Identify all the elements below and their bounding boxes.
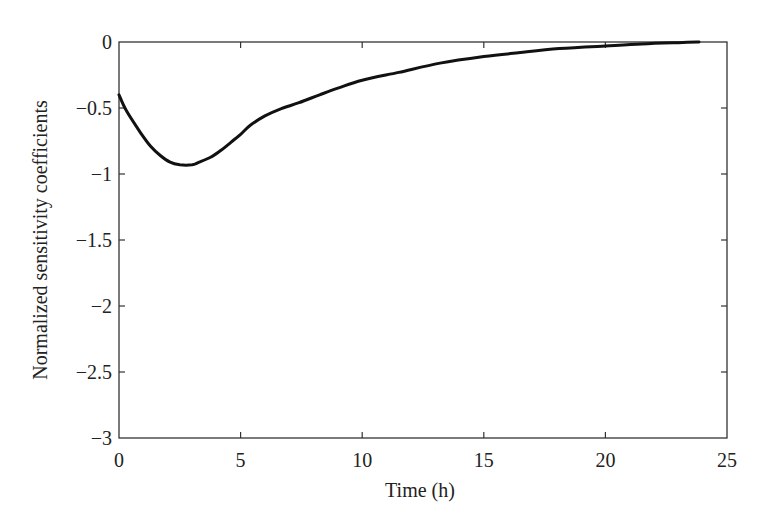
x-tick-label: 20 — [595, 449, 615, 471]
y-tick-label: −3 — [91, 427, 112, 449]
x-axis-ticks: 0510152025 — [114, 42, 737, 471]
y-axis-ticks: 0−0.5−1−1.5−2−2.5−3 — [76, 31, 727, 449]
x-tick-label: 5 — [236, 449, 246, 471]
y-tick-label: 0 — [102, 31, 112, 53]
sensitivity-curve — [119, 42, 699, 165]
x-tick-label: 10 — [352, 449, 372, 471]
y-tick-label: −2 — [91, 295, 112, 317]
y-tick-label: −1 — [91, 163, 112, 185]
x-tick-label: 0 — [114, 449, 124, 471]
x-tick-label: 15 — [474, 449, 494, 471]
data-series — [119, 42, 699, 165]
y-tick-label: −2.5 — [76, 361, 112, 383]
x-tick-label: 25 — [717, 449, 737, 471]
sensitivity-line-chart: 0510152025 0−0.5−1−1.5−2−2.5−3 Time (h) … — [0, 0, 762, 524]
y-tick-label: −0.5 — [76, 97, 112, 119]
y-tick-label: −1.5 — [76, 229, 112, 251]
plot-frame — [119, 42, 727, 438]
plot-border — [119, 42, 727, 438]
x-axis-label: Time (h) — [385, 479, 455, 502]
y-axis-label: Normalized sensitivity coefficients — [29, 100, 52, 380]
